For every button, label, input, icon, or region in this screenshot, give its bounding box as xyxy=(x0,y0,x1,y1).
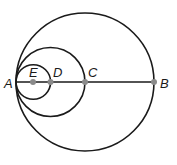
label-d: D xyxy=(53,65,62,80)
tangent-circles-diagram: A E D C B xyxy=(0,0,177,165)
point-b xyxy=(151,79,157,85)
label-b: B xyxy=(160,76,169,91)
label-e: E xyxy=(29,65,38,80)
label-c: C xyxy=(88,65,98,80)
label-a: A xyxy=(3,76,13,91)
